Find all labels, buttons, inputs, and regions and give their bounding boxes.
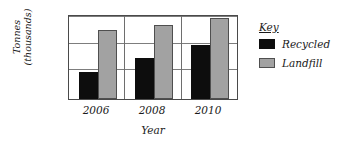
bar-chart-screenshot: Tonnes (thousands) 150 100 50 0 2006 200…: [0, 0, 353, 145]
y-axis-title: Tonnes (thousands): [11, 0, 33, 83]
legend-title: Key: [259, 21, 279, 33]
gridline-150: [69, 16, 237, 17]
x-tick-label-2010: 2010: [180, 104, 236, 116]
plot-area: [68, 15, 238, 100]
bar-landfill-2008: [154, 25, 173, 99]
bar-landfill-2010: [210, 18, 229, 99]
x-tick-label-2008: 2008: [124, 104, 180, 116]
legend-label-landfill: Landfill: [282, 57, 322, 69]
chart-figure: Tonnes (thousands) 150 100 50 0 2006 200…: [0, 0, 250, 145]
landfill-swatch-icon: [259, 58, 275, 68]
legend-label-recycled: Recycled: [282, 38, 330, 50]
legend-item-recycled: Recycled: [259, 38, 351, 50]
bar-recycled-2006: [79, 72, 98, 99]
y-axis-title-line-1: Tonnes: [11, 0, 22, 83]
bar-landfill-2006: [98, 30, 117, 99]
legend-item-landfill: Landfill: [259, 57, 351, 69]
bar-recycled-2008: [135, 58, 154, 99]
x-axis-title: Year: [68, 124, 238, 136]
y-axis-title-line-2: (thousands): [22, 0, 33, 83]
chart-legend: Key Recycled Landfill: [259, 16, 351, 76]
group-separator-2: [181, 16, 182, 99]
bar-recycled-2010: [191, 45, 210, 99]
group-separator-1: [124, 16, 125, 99]
x-tick-label-2006: 2006: [68, 104, 124, 116]
recycled-swatch-icon: [259, 39, 275, 49]
